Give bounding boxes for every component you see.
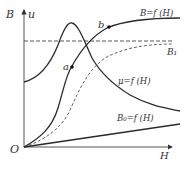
y-axis-label-mu: u: [28, 8, 35, 21]
x-axis-label: H: [159, 150, 169, 161]
magnetization-diagram: B u O H a b B=f (H) B₁ μ=f (H) B₀=f (H): [0, 0, 194, 175]
b1-label: B₁: [166, 47, 177, 57]
origin-label: O: [10, 143, 19, 156]
point-a-label: a: [63, 61, 69, 72]
b-curve-label: B=f (H): [139, 8, 173, 18]
mu-curve-label: μ=f (H): [118, 76, 151, 86]
b0-curve-label: B₀=f (H): [116, 113, 154, 123]
point-a: [70, 65, 74, 69]
point-b-label: b: [98, 19, 104, 30]
mu-curve: [24, 23, 180, 111]
point-b: [107, 25, 111, 29]
y-axis-label-b: B: [5, 8, 14, 21]
b-dashed-curve: [24, 44, 172, 147]
